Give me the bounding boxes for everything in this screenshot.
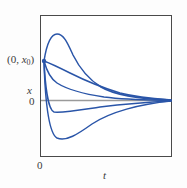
y-axis-zero-tick-label: 0 xyxy=(29,96,35,107)
initial-point-marker xyxy=(42,59,46,63)
figure-container: (0, x0) x 0 0 t xyxy=(0,0,187,188)
initial-point-prefix: (0, xyxy=(7,53,22,65)
initial-point-suffix: ) xyxy=(31,53,35,65)
plot-frame xyxy=(41,16,172,157)
x-axis-zero-tick-label: 0 xyxy=(37,160,43,171)
initial-point-label: (0, x0) xyxy=(7,54,34,67)
x-axis-label: t xyxy=(103,170,106,181)
